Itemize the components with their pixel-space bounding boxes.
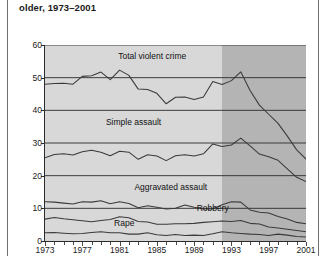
series-lines <box>45 45 306 241</box>
y-axis-tick-label: 10 <box>22 203 42 213</box>
y-axis-tick-label: 60 <box>22 40 42 50</box>
x-axis-tick-label: 1977 <box>73 245 92 255</box>
y-axis-tick <box>41 110 45 111</box>
series-line <box>45 138 306 181</box>
series-label: Simple assault <box>106 117 161 127</box>
x-axis-tick-label: 1981 <box>110 245 129 255</box>
y-axis-tick <box>41 143 45 144</box>
series-line <box>45 217 306 232</box>
y-axis-tick <box>41 78 45 79</box>
x-axis-tick-label: 1985 <box>147 245 166 255</box>
y-axis-tick <box>41 176 45 177</box>
y-axis-tick <box>41 208 45 209</box>
y-axis-tick-label: 30 <box>22 138 42 148</box>
y-axis-tick-label: 20 <box>22 171 42 181</box>
series-label: Aggravated assault <box>134 182 207 192</box>
series-label: Robbery <box>197 203 229 213</box>
x-axis-tick-label: 1989 <box>185 245 204 255</box>
x-axis-tick <box>213 242 214 245</box>
page-rule-left <box>7 0 8 256</box>
series-line <box>45 201 306 224</box>
plot-area <box>45 45 306 241</box>
x-axis-tick <box>287 242 288 245</box>
y-axis-tick-label: 50 <box>22 73 42 83</box>
x-axis-tick <box>101 242 102 245</box>
x-axis-tick-label: 1973 <box>36 245 55 255</box>
series-label: Total violent crime <box>118 51 186 61</box>
page-rule-right <box>318 0 319 256</box>
chart-figure: older, 1973–2001 01020304050601973197719… <box>0 0 334 256</box>
x-axis-tick <box>64 242 65 245</box>
x-axis-tick <box>176 242 177 245</box>
x-axis-tick <box>138 242 139 245</box>
x-axis-tick-label: 1993 <box>222 245 241 255</box>
x-axis-tick-label: 1997 <box>259 245 278 255</box>
series-line <box>45 70 306 159</box>
series-line <box>45 232 306 237</box>
chart-title: older, 1973–2001 <box>19 2 96 13</box>
x-axis-tick <box>250 242 251 245</box>
series-label: Rape <box>114 218 134 228</box>
x-axis-tick-label: 2001 <box>297 245 316 255</box>
y-axis-tick <box>41 45 45 46</box>
y-axis-tick-label: 40 <box>22 105 42 115</box>
